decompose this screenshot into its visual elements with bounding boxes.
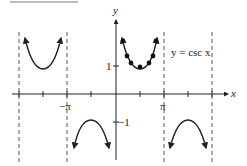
pi-label: π: [160, 100, 166, 112]
y-tick-1-label: 1: [106, 60, 112, 72]
csc-graph: y x −π π 1 −1 y = csc x: [0, 0, 247, 166]
branch-3: [122, 38, 157, 69]
axes: [12, 20, 228, 160]
branch-2: [74, 120, 109, 148]
branch-1: [25, 38, 61, 69]
data-points: [121, 39, 159, 70]
y-tick-neg1-label: −1: [118, 116, 130, 128]
y-axis-label: y: [112, 4, 118, 16]
branch-4: [170, 120, 206, 148]
x-axis-label: x: [230, 87, 236, 99]
neg-pi-label: −π: [59, 100, 71, 112]
function-label: y = csc x: [171, 46, 211, 58]
